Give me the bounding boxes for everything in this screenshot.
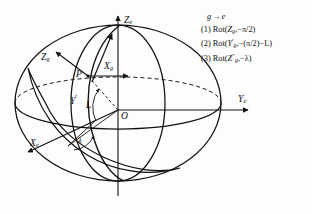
axis-label-ze: Ze [124, 16, 132, 26]
latitude-angle-arc [93, 89, 99, 121]
legend-item-2: (2) Rot(Y′g,−(π/2)−L) [201, 36, 311, 51]
axis-label-xe: Xe [30, 139, 39, 149]
axis-label-y-prime: Y′ [70, 94, 77, 106]
axis-label-ye: Ye [238, 95, 246, 105]
point-p-marker [87, 75, 90, 78]
origin-label-o: O [121, 112, 128, 122]
legend-heading: g→e [201, 11, 311, 24]
rotation-sequence-legend: g→e (1) Rot(Zg,−π/2) (2) Rot(Y′g,−(π/2)−… [201, 11, 311, 65]
angle-label-latitude: L [86, 101, 91, 111]
rotation-sequence-figure: Ze Ye Xe Zg Xg Y′ P O L λ g→e (1) Rot(Zg… [0, 0, 312, 214]
longitude-chord [68, 110, 118, 146]
legend-item-1: (1) Rot(Zg,−π/2) [201, 24, 311, 37]
axis-label-zg: Zg [41, 53, 50, 63]
point-label-p: P [76, 70, 82, 80]
legend-item-3: (3) Rot(Z″g,−λ) [201, 51, 311, 66]
meridian-tangent-arrow [92, 34, 112, 82]
axis-label-xg: Xg [104, 62, 113, 72]
axis-zg-line [56, 52, 88, 76]
angle-label-longitude: λ [78, 136, 82, 145]
